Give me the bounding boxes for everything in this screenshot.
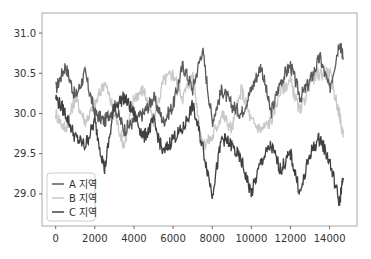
legend-label: B 지역 [69,193,97,204]
line-chart: 29.029.530.030.531.0 0200040006000800010… [0,0,371,259]
x-axis: 02000400060008000100001200014000 [53,226,346,244]
legend-label: C 지역 [69,207,97,218]
x-tick-label: 2000 [82,233,107,244]
y-tick-label: 29.0 [14,188,36,199]
x-tick-label: 14000 [314,233,346,244]
x-tick-label: 8000 [199,233,224,244]
legend: A 지역B 지역C 지역 [47,173,97,221]
x-tick-label: 10000 [235,233,267,244]
y-tick-label: 30.0 [14,108,36,119]
y-axis: 29.029.530.030.531.0 [14,28,42,200]
x-tick-label: 4000 [121,233,146,244]
legend-label: A 지역 [69,179,97,190]
x-tick-label: 0 [53,233,59,244]
x-tick-label: 6000 [160,233,185,244]
y-tick-label: 30.5 [14,68,36,79]
y-tick-label: 29.5 [14,148,36,159]
x-tick-label: 12000 [275,233,307,244]
y-tick-label: 31.0 [14,28,36,39]
